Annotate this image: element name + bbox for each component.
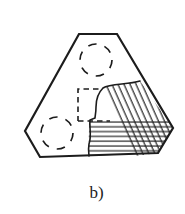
figure-panel: b)	[0, 0, 185, 214]
dashed-circle-bottom-left-hole	[41, 117, 73, 149]
figure-label: b)	[0, 183, 185, 203]
dashed-circle-top-hole	[80, 44, 112, 76]
diagram-canvas	[0, 0, 185, 214]
